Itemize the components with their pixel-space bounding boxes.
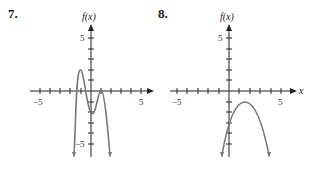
curve-right-arrow-icon [108,152,112,158]
y-tick-label-5: 5 [80,33,85,43]
graph-7-axes: −5 5 5 −5 f(x) [30,11,154,157]
x-tick-label-neg5: −5 [33,97,43,107]
curve-left-arrow-icon [72,152,76,158]
problem-number-8: 8. [158,6,168,22]
y-axis-label: f(x) [82,11,97,23]
x-axis-arrow-icon [147,88,154,94]
graph-7: −5 5 5 −5 f(x) [0,0,309,170]
x-tick-label-5: 5 [139,97,144,107]
y-axis-arrow-icon [88,24,94,31]
y-tick-label-neg5: −5 [75,139,85,149]
